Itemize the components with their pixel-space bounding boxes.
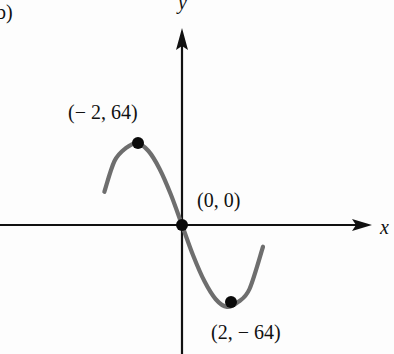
y-axis-label: y <box>178 0 187 12</box>
origin-point-label: (0, 0) <box>197 190 240 210</box>
origin-point <box>176 219 188 231</box>
local-max-point <box>132 137 144 149</box>
graph-canvas <box>0 0 394 354</box>
cubic-function-graph: b) y x (− 2, 64) (0, 0) (2, − 64) <box>0 0 394 354</box>
local-min-point <box>225 296 237 308</box>
panel-label: b) <box>0 2 13 22</box>
max-point-label: (− 2, 64) <box>68 102 138 122</box>
min-point-label: (2, − 64) <box>211 322 281 342</box>
x-axis-label: x <box>380 217 389 237</box>
